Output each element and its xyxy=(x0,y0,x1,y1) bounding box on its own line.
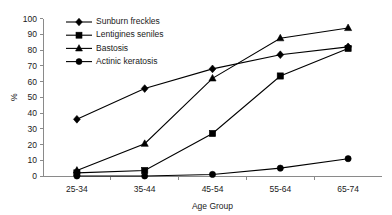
legend-item-bastosis: Bastosis xyxy=(66,43,128,53)
marker-triangle xyxy=(76,45,83,51)
y-tick-label: 90 xyxy=(28,29,38,39)
marker-circle xyxy=(74,173,80,179)
y-tick-label: 40 xyxy=(28,108,38,118)
marker-diamond xyxy=(73,115,80,123)
y-tick-label: 20 xyxy=(28,140,38,150)
y-tick-label: 30 xyxy=(28,124,38,134)
chart-legend: Sunburn frecklesLentigines senilesBastos… xyxy=(66,16,164,66)
marker-diamond xyxy=(141,85,148,93)
y-tick-label: 100 xyxy=(23,14,37,24)
x-tick-label: 45-54 xyxy=(202,184,224,194)
marker-circle xyxy=(209,171,215,177)
y-tick-label: 10 xyxy=(28,155,38,165)
marker-square xyxy=(209,130,215,136)
line-chart: Sunburn frecklesLentigines senilesBastos… xyxy=(0,0,392,215)
x-tick-label: 55-64 xyxy=(269,184,291,194)
chart-container: Sunburn frecklesLentigines senilesBastos… xyxy=(0,0,392,215)
axes xyxy=(40,19,382,180)
legend-item-sunburn-freckles: Sunburn freckles xyxy=(66,16,160,26)
x-tick-label: 35-44 xyxy=(134,184,156,194)
marker-circle xyxy=(142,173,148,179)
axis-labels: 010203040506070809010025-3435-4445-5455-… xyxy=(9,14,359,211)
marker-diamond xyxy=(209,65,216,73)
y-tick-label: 80 xyxy=(28,45,38,55)
x-tick-label: 65-74 xyxy=(337,184,359,194)
legend-label: Lentigines seniles xyxy=(96,29,164,39)
y-axis-title-group: % xyxy=(9,93,19,101)
legend-item-actinic-keratosis: Actinic keratosis xyxy=(66,56,157,66)
marker-triangle xyxy=(345,24,352,31)
marker-circle xyxy=(277,165,283,171)
legend-label: Actinic keratosis xyxy=(96,56,157,66)
legend-label: Sunburn freckles xyxy=(96,16,160,26)
legend-label: Bastosis xyxy=(96,43,128,53)
marker-diamond xyxy=(277,51,284,59)
marker-circle xyxy=(76,59,82,65)
marker-square xyxy=(277,73,283,79)
marker-diamond xyxy=(76,18,83,26)
x-axis-title: Age Group xyxy=(192,201,233,211)
legend-item-lentigines-seniles: Lentigines seniles xyxy=(66,29,164,39)
y-tick-label: 60 xyxy=(28,77,38,87)
x-tick-label: 25-34 xyxy=(66,184,88,194)
y-tick-label: 0 xyxy=(32,171,37,181)
marker-circle xyxy=(345,156,351,162)
marker-square xyxy=(345,45,351,51)
marker-triangle xyxy=(209,74,216,81)
y-axis-title: % xyxy=(9,93,19,101)
marker-square xyxy=(76,32,82,38)
y-tick-label: 50 xyxy=(28,92,38,102)
y-tick-label: 70 xyxy=(28,61,38,71)
